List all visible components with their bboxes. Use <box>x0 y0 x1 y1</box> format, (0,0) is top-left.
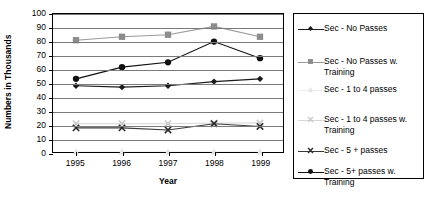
y-axis-tick-mark <box>49 56 53 57</box>
legend-label: Sec - 5 + passes <box>324 145 422 156</box>
legend-item-2[interactable]: Sec - No Passes w. Training <box>298 56 422 77</box>
legend-item-4[interactable]: Sec - 1 to 4 passes w. Training <box>298 114 422 135</box>
gridline <box>53 126 283 127</box>
legend-item-6[interactable]: Sec - 5+ passes w. Training <box>298 166 422 187</box>
y-axis-tick-mark <box>49 84 53 85</box>
series-layer <box>53 14 283 152</box>
series-3 <box>73 148 263 154</box>
x-axis-tick-mark <box>215 152 216 156</box>
x-axis-title: Year <box>52 176 284 186</box>
x-axis-tick-mark <box>76 152 77 156</box>
chart-screenshot: Numbers in Thousands 1009080706050403020… <box>0 0 427 197</box>
legend-marker-icon <box>298 57 324 68</box>
y-axis-title: Numbers in Thousands <box>1 22 15 142</box>
y-axis-tick-label: 30 <box>37 107 46 115</box>
x-axis-tick-label: 1999 <box>241 158 281 168</box>
plot-area <box>52 13 284 153</box>
legend-marker-icon <box>298 146 324 157</box>
y-axis-tick-mark <box>49 14 53 15</box>
y-axis-tick-label: 90 <box>37 23 46 31</box>
gridline <box>53 28 283 29</box>
y-axis-tick-mark <box>49 154 53 155</box>
legend-marker-icon <box>298 85 324 96</box>
y-axis-tick-labels: 1009080706050403020100 <box>16 9 48 157</box>
y-axis-tick-mark <box>49 28 53 29</box>
gridline <box>53 84 283 85</box>
x-axis-tick-label: 1996 <box>102 158 142 168</box>
y-axis-tick-label: 80 <box>37 37 46 45</box>
line-chart: Numbers in Thousands 1009080706050403020… <box>0 0 292 197</box>
series-1 <box>73 76 263 91</box>
legend-item-5[interactable]: Sec - 5 + passes <box>298 145 422 157</box>
legend-marker-icon <box>298 24 324 35</box>
gridline <box>53 112 283 113</box>
y-axis-tick-label: 10 <box>37 135 46 143</box>
legend-item-1[interactable]: Sec - No Passes <box>298 23 422 35</box>
y-axis-tick-mark <box>49 112 53 113</box>
gridline <box>53 98 283 99</box>
x-axis-tick-labels: 19951996199719981999 <box>52 158 284 170</box>
x-axis-tick-mark <box>123 152 124 156</box>
y-axis-tick-mark <box>49 42 53 43</box>
series-6 <box>73 38 263 82</box>
gridline <box>53 56 283 57</box>
x-axis-tick-label: 1997 <box>148 158 188 168</box>
x-axis-tick-mark <box>169 152 170 156</box>
legend-item-3[interactable]: Sec - 1 to 4 passes <box>298 84 422 96</box>
y-axis-tick-mark <box>49 98 53 99</box>
legend-label: Sec - 1 to 4 passes <box>324 84 422 95</box>
y-axis-tick-label: 60 <box>37 65 46 73</box>
legend-marker-icon <box>298 167 324 178</box>
y-axis-tick-label: 0 <box>41 149 46 157</box>
gridline <box>53 140 283 141</box>
legend-marker-icon <box>298 115 324 126</box>
y-axis-tick-label: 50 <box>37 79 46 87</box>
legend-label: Sec - 5+ passes w. Training <box>324 166 422 187</box>
y-axis-tick-label: 40 <box>37 93 46 101</box>
gridline <box>53 14 283 15</box>
x-axis-tick-mark <box>262 152 263 156</box>
y-axis-tick-mark <box>49 140 53 141</box>
y-axis-tick-mark <box>49 70 53 71</box>
legend-label: Sec - No Passes <box>324 23 422 34</box>
gridline <box>53 70 283 71</box>
x-axis-tick-label: 1998 <box>194 158 234 168</box>
y-axis-tick-mark <box>49 126 53 127</box>
series-2 <box>73 23 263 43</box>
y-axis-tick-label: 100 <box>32 9 46 17</box>
x-axis-tick-label: 1995 <box>55 158 95 168</box>
y-axis-tick-label: 20 <box>37 121 46 129</box>
legend: Sec - No PassesSec - No Passes w. Traini… <box>293 13 424 179</box>
gridline <box>53 42 283 43</box>
y-axis-tick-label: 70 <box>37 51 46 59</box>
legend-label: Sec - 1 to 4 passes w. Training <box>324 114 422 135</box>
legend-label: Sec - No Passes w. Training <box>324 56 422 77</box>
